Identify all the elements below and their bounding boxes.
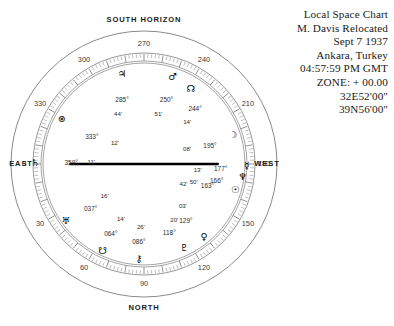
degree-tick [121, 268, 122, 272]
degree-tick [68, 85, 71, 88]
degree-tick [194, 67, 196, 70]
degree-tick [62, 90, 65, 93]
degree-tick [245, 197, 249, 198]
degree-tick [191, 65, 193, 68]
degree-tick [184, 62, 185, 66]
degree-tick [159, 55, 160, 59]
degree-tick [129, 269, 130, 273]
degree-tick [218, 240, 221, 243]
planet-minute-pluto: 20' [170, 216, 178, 223]
degree-tick [179, 261, 181, 268]
degree-tick [234, 106, 237, 108]
degree-tick [173, 266, 174, 270]
degree-tick [209, 248, 211, 251]
degree-tick [184, 262, 185, 266]
planet-glyph-chiron: ⚷ [135, 253, 142, 264]
degree-tick [239, 211, 242, 213]
planet-degree-jupiter: 285° [115, 96, 129, 103]
degree-tick [239, 116, 242, 118]
ring-label-270: 270 [138, 39, 150, 48]
degree-tick [246, 134, 250, 135]
degree-tick [51, 106, 54, 108]
degree-tick [70, 243, 73, 246]
degree-tick [223, 235, 226, 238]
degree-tick [223, 93, 228, 97]
degree-tick [125, 265, 126, 272]
planet-degree-mars: 250° [160, 96, 174, 103]
degree-tick [241, 126, 248, 128]
degree-tick [110, 265, 111, 269]
degree-tick [159, 269, 160, 273]
degree-tick [242, 123, 246, 124]
degree-tick [89, 69, 93, 75]
degree-tick [233, 109, 239, 113]
planet-minute-venus: 03' [179, 202, 187, 209]
degree-tick [41, 126, 48, 128]
chart-wheel-svg: 0306090120150180210240270300330SOUTH HOR… [8, 14, 280, 314]
degree-tick [234, 220, 237, 222]
degree-tick [230, 226, 233, 228]
degree-tick [55, 226, 58, 228]
cardinal-east: EAST [9, 159, 33, 168]
degree-tick [49, 109, 55, 113]
degree-tick [37, 190, 41, 191]
degree-tick [106, 261, 108, 268]
planet-minute-part-of-fortune: 12' [111, 139, 119, 146]
degree-tick [39, 130, 43, 131]
planet-glyph-mars: ♂ [168, 71, 177, 82]
degree-tick [47, 112, 50, 114]
planet-degree-part-of-fortune: 333° [85, 133, 99, 140]
planet-degree-moon: 195° [203, 142, 217, 149]
degree-tick [177, 59, 178, 63]
degree-tick [206, 250, 208, 253]
degree-tick [245, 130, 249, 131]
degree-tick [166, 56, 167, 60]
degree-tick [249, 179, 253, 180]
degree-tick [82, 73, 84, 76]
cardinal-west: WEST [254, 159, 279, 168]
planet-glyph-neptune: ♆ [238, 171, 247, 182]
degree-tick [215, 82, 218, 85]
planet-degree-pluto: 118° [163, 229, 176, 236]
degree-tick [110, 59, 111, 63]
degree-tick [200, 71, 202, 74]
degree-tick [200, 254, 202, 257]
degree-tick [70, 82, 73, 85]
planet-glyph-north-node: ☊ [187, 83, 196, 94]
degree-tick [210, 80, 214, 85]
degree-tick [246, 193, 250, 194]
degree-tick [121, 56, 122, 60]
planet-minute-chiron: 26' [137, 223, 145, 230]
ring-label-150: 150 [242, 219, 254, 228]
degree-tick [35, 149, 39, 150]
degree-tick [38, 134, 42, 135]
degree-tick [177, 265, 178, 269]
degree-tick [241, 119, 244, 121]
degree-tick [96, 65, 98, 68]
degree-tick [203, 73, 205, 76]
degree-tick [241, 207, 244, 209]
degree-tick [173, 58, 174, 62]
degree-tick [36, 141, 40, 142]
degree-tick [38, 193, 42, 194]
ring-label-210: 210 [242, 99, 254, 108]
degree-tick [89, 253, 93, 259]
planet-degree-saturn: 359° [65, 159, 79, 166]
degree-tick [39, 197, 43, 198]
planet-degree-south-node: 064° [104, 230, 118, 237]
planet-degree-uranus: 037° [84, 205, 98, 212]
ring-label-90: 90 [140, 279, 148, 288]
degree-tick [82, 252, 84, 255]
planet-degree-mercury: 177° [214, 165, 228, 172]
degree-tick [125, 56, 126, 63]
planet-glyph-uranus: ♅ [61, 215, 70, 226]
degree-tick [57, 229, 60, 231]
degree-tick [96, 259, 98, 262]
planet-minute-mars: 51' [155, 110, 163, 117]
planet-glyph-moon: ☽ [229, 129, 238, 140]
degree-tick [233, 216, 239, 220]
degree-tick [41, 199, 48, 201]
degree-tick [220, 238, 223, 241]
degree-tick [86, 71, 88, 74]
degree-tick [62, 235, 65, 238]
